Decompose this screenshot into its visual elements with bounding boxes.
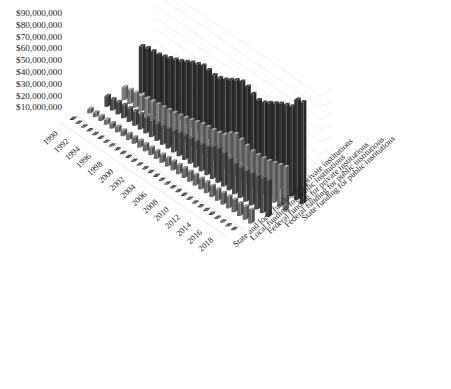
bar [231, 227, 238, 230]
bar-front-face [126, 134, 130, 140]
y-axis-tick-label: $50,000,000 [16, 55, 62, 65]
bar-side-face [159, 53, 162, 105]
bar-side-face [247, 169, 250, 202]
bar-front-face [81, 127, 85, 128]
bar-front-face [122, 87, 126, 100]
bar-side-face [125, 85, 128, 100]
bar-front-face [225, 225, 229, 226]
bar [137, 162, 144, 165]
bar [87, 107, 94, 114]
bar [148, 170, 155, 173]
bar-front-face [104, 120, 108, 125]
y-axis-tick-label: $30,000,000 [16, 79, 62, 89]
bar [98, 136, 105, 139]
bar [187, 196, 194, 199]
bar-side-face [136, 109, 139, 126]
bar-side-face [180, 131, 183, 156]
bar-side-face [241, 201, 244, 216]
bar [175, 189, 182, 192]
bar-side-face [191, 136, 194, 164]
bar-chart-3d: $90,000,000$80,000,000$70,000,000$60,000… [0, 0, 451, 389]
bar [131, 158, 138, 161]
bar-side-face [187, 60, 190, 124]
bar-front-face [175, 191, 179, 192]
bar-side-face [181, 59, 184, 120]
bar-front-face [131, 161, 135, 162]
bar [109, 143, 116, 146]
bar-front-face [214, 218, 218, 219]
bar [153, 174, 160, 177]
bar [225, 223, 232, 226]
bar [198, 204, 205, 207]
bar-side-face [246, 204, 249, 220]
bar [120, 151, 127, 154]
bar-side-face [230, 157, 233, 191]
gridline-right-wall [320, 125, 334, 130]
bar [70, 117, 77, 120]
bar [103, 139, 110, 142]
bar-front-face [98, 116, 102, 121]
bar-front-face [132, 138, 136, 144]
bar-side-face [236, 162, 239, 194]
bar-side-face [136, 91, 139, 108]
bar [87, 128, 94, 131]
bar-front-face [148, 172, 152, 173]
y-axis-labels: $90,000,000$80,000,000$70,000,000$60,000… [16, 8, 62, 112]
bar-side-face [169, 126, 172, 148]
bar-side-face [164, 105, 167, 127]
bar-side-face [213, 145, 216, 179]
bar-side-face [175, 129, 178, 153]
bar [192, 200, 199, 203]
gridline-right-wall [320, 90, 334, 95]
bar-side-face [142, 93, 145, 111]
y-axis-tick-label: $20,000,000 [16, 91, 62, 101]
bar-side-face [208, 145, 211, 176]
bar-side-face [263, 176, 266, 213]
bar-side-face [119, 100, 122, 115]
bar-front-face [139, 46, 143, 93]
bar-front-face [126, 157, 130, 158]
bar-side-face [252, 171, 255, 205]
bar-front-face [209, 214, 213, 215]
bar-side-face [170, 56, 173, 113]
bar-side-face [225, 151, 228, 186]
bar [76, 120, 83, 123]
bar-front-face [137, 165, 141, 166]
bar [142, 166, 149, 169]
bar-side-face [202, 142, 205, 171]
bar-side-face [125, 103, 128, 118]
bar [203, 208, 210, 211]
bar-front-face [187, 199, 191, 200]
bar [122, 85, 129, 100]
bar-front-face [76, 123, 80, 124]
bar-front-face [198, 206, 202, 207]
bar-side-face [275, 161, 278, 203]
bar-side-face [224, 191, 227, 205]
bar-side-face [165, 55, 168, 109]
bar [209, 212, 216, 215]
bar-front-face [104, 96, 108, 107]
bar-side-face [219, 146, 222, 183]
bar-side-face [258, 174, 261, 209]
bar-front-face [192, 203, 196, 204]
bar [159, 177, 166, 180]
bar-side-face [152, 118, 155, 137]
bar-side-face [192, 61, 195, 128]
bar-front-face [114, 149, 118, 150]
bar [181, 193, 188, 196]
gridline-right-wall [320, 101, 334, 106]
bar-side-face [235, 198, 238, 213]
bar-side-face [154, 49, 157, 101]
y-axis-tick-label: $10,000,000 [16, 102, 62, 112]
bar-side-face [131, 88, 134, 104]
bar-side-face [158, 121, 161, 141]
bar-side-face [176, 57, 179, 116]
bar-front-face [70, 119, 74, 120]
bar-front-face [153, 176, 157, 177]
bar [93, 110, 100, 117]
bar [139, 44, 146, 94]
bar-side-face [147, 96, 150, 115]
gridline-right-wall [320, 113, 334, 118]
bar-front-face [231, 229, 235, 230]
bar-front-face [87, 109, 91, 113]
